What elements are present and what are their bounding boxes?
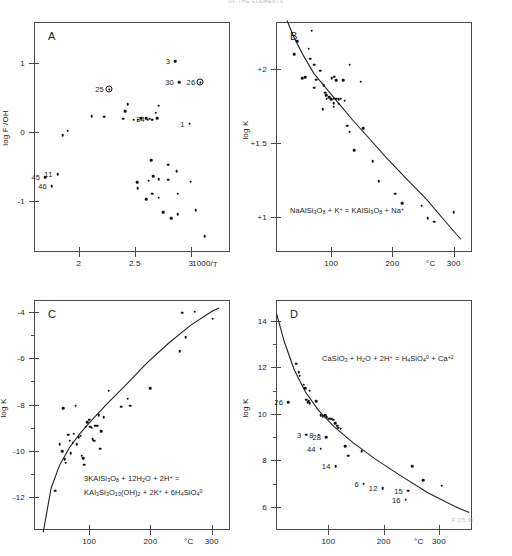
data-point bbox=[339, 428, 342, 431]
data-point bbox=[154, 111, 157, 114]
data-point bbox=[61, 450, 64, 453]
data-point bbox=[83, 464, 86, 467]
x-tick bbox=[328, 530, 329, 535]
panel-letter-a: A bbox=[48, 30, 56, 42]
x-tick-label: 300 bbox=[432, 537, 446, 546]
data-point bbox=[308, 402, 311, 405]
y-tick-label: +1 bbox=[257, 212, 270, 221]
x-axis-title: °C bbox=[426, 259, 435, 268]
data-point bbox=[332, 418, 335, 421]
data-point bbox=[156, 117, 159, 120]
data-point-label: 26 bbox=[187, 78, 198, 87]
x-tick-inner bbox=[439, 525, 440, 530]
y-tick-label: -10 bbox=[13, 447, 28, 456]
data-point bbox=[195, 209, 198, 212]
data-point bbox=[427, 217, 430, 220]
x-tick-label: 300 bbox=[205, 537, 219, 546]
data-point bbox=[126, 103, 129, 106]
x-tick bbox=[79, 252, 80, 257]
data-point-label: 15 bbox=[394, 486, 405, 495]
x-tick bbox=[439, 530, 440, 535]
data-point bbox=[181, 312, 184, 315]
data-point bbox=[129, 404, 132, 407]
data-point bbox=[107, 389, 110, 392]
data-point bbox=[333, 75, 336, 78]
x-tick bbox=[392, 252, 393, 257]
data-point bbox=[84, 425, 87, 428]
x-axis-title: 1000/T bbox=[192, 259, 218, 268]
data-point bbox=[313, 64, 316, 67]
y-minor-tick bbox=[273, 344, 276, 345]
data-point bbox=[98, 414, 101, 417]
data-point bbox=[193, 310, 196, 313]
page-header: OF THE ELEMENTS bbox=[0, 0, 512, 4]
data-point bbox=[71, 442, 74, 445]
data-point bbox=[148, 179, 151, 182]
data-point bbox=[347, 454, 350, 457]
data-point bbox=[178, 81, 181, 84]
panel-letter-d: D bbox=[290, 308, 298, 320]
data-point bbox=[74, 404, 77, 407]
data-point bbox=[70, 452, 73, 455]
data-point bbox=[304, 387, 307, 390]
data-point bbox=[346, 125, 349, 128]
data-point-label: 28 bbox=[312, 433, 323, 442]
x-tick bbox=[331, 252, 332, 257]
data-point bbox=[190, 180, 193, 183]
data-point bbox=[63, 458, 66, 461]
data-point bbox=[162, 211, 165, 214]
data-point bbox=[321, 108, 324, 111]
data-point bbox=[334, 465, 337, 468]
data-point bbox=[151, 119, 154, 122]
data-point bbox=[136, 187, 139, 190]
data-point bbox=[407, 489, 410, 492]
data-point bbox=[56, 173, 59, 176]
data-point bbox=[167, 178, 170, 181]
data-point-label: 16 bbox=[392, 495, 403, 504]
y-minor-tick bbox=[31, 474, 34, 475]
data-point bbox=[179, 350, 182, 353]
data-point bbox=[404, 499, 407, 502]
x-tick bbox=[150, 530, 151, 535]
data-point bbox=[61, 134, 64, 137]
data-point-label: 30 bbox=[165, 78, 176, 87]
panel-b-equation: NaAlSi3O8 + K+ = KAlSi3O8 + Na+ bbox=[290, 204, 404, 218]
data-point bbox=[103, 115, 106, 118]
x-tick-label: 100 bbox=[321, 537, 335, 546]
x-tick bbox=[454, 252, 455, 257]
y-axis-title: log F-/OH bbox=[1, 110, 10, 146]
y-tick-inner bbox=[276, 460, 281, 461]
data-point bbox=[360, 450, 363, 453]
x-tick-inner bbox=[150, 525, 151, 530]
data-point bbox=[411, 465, 414, 468]
data-point bbox=[421, 204, 424, 207]
data-point bbox=[319, 447, 322, 450]
y-minor-tick bbox=[273, 437, 276, 438]
x-tick-label: 200 bbox=[377, 537, 391, 546]
data-point bbox=[151, 192, 154, 195]
data-point bbox=[122, 118, 125, 121]
data-point bbox=[313, 86, 316, 89]
data-point-label: 25 bbox=[95, 85, 106, 94]
y-tick-inner bbox=[34, 63, 39, 64]
data-point-label: 26 bbox=[274, 398, 285, 407]
data-point bbox=[93, 439, 96, 442]
data-point bbox=[177, 192, 180, 195]
data-point bbox=[305, 433, 308, 436]
data-point bbox=[132, 119, 135, 122]
y-tick-inner bbox=[34, 201, 39, 202]
y-minor-tick bbox=[31, 381, 34, 382]
data-point-label: 14 bbox=[322, 462, 333, 471]
x-tick-label: 300 bbox=[447, 259, 461, 268]
data-point bbox=[394, 193, 397, 196]
y-tick-label: +1.5 bbox=[250, 138, 270, 147]
data-point bbox=[343, 100, 346, 103]
data-point bbox=[158, 105, 161, 108]
x-tick-inner bbox=[191, 247, 192, 252]
y-tick-label: -1 bbox=[17, 196, 28, 205]
data-point bbox=[381, 487, 384, 490]
data-point bbox=[378, 180, 381, 183]
data-point-label: 12 bbox=[369, 484, 380, 493]
data-point bbox=[126, 397, 129, 400]
x-tick-label: 200 bbox=[143, 537, 157, 546]
